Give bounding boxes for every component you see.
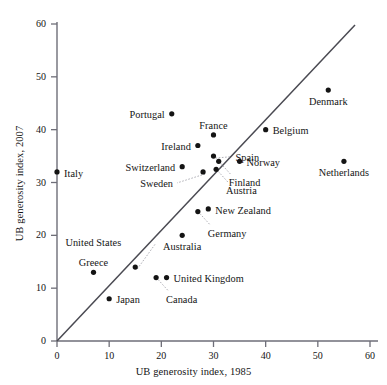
data-point-sweden <box>200 169 205 174</box>
data-point-austria <box>214 167 219 172</box>
x-tick-label-60: 60 <box>353 350 387 361</box>
x-tick-label-50: 50 <box>301 350 335 361</box>
data-point-netherlands <box>341 159 346 164</box>
data-point-france <box>211 132 216 137</box>
data-point-germany <box>195 209 200 214</box>
point-label-belgium: Belgium <box>273 125 309 136</box>
label-leader-lines <box>137 157 231 291</box>
x-tick-label-20: 20 <box>144 350 178 361</box>
point-label-germany: Germany <box>208 228 247 239</box>
y-tick-label-0: 0 <box>14 335 46 346</box>
data-point-canada <box>154 275 159 280</box>
x-tick-label-0: 0 <box>40 350 74 361</box>
data-point-denmark <box>326 87 331 92</box>
data-point-ireland <box>195 143 200 148</box>
point-label-new-zealand: New Zealand <box>215 205 271 216</box>
data-point-greece <box>91 270 96 275</box>
point-label-australia: Australia <box>122 241 242 252</box>
x-tick-label-10: 10 <box>92 350 126 361</box>
y-tick-label-60: 60 <box>14 18 46 29</box>
y-tick-label-50: 50 <box>14 71 46 82</box>
point-label-japan: Japan <box>116 294 140 305</box>
data-point-switzerland <box>180 164 185 169</box>
point-label-denmark: Denmark <box>268 96 387 107</box>
x-tick-label-40: 40 <box>249 350 283 361</box>
x-axis-title: UB generosity index, 1985 <box>0 366 387 377</box>
data-point-finland <box>216 159 221 164</box>
data-point-united-kingdom <box>164 275 169 280</box>
point-label-norway: Norway <box>247 157 280 168</box>
point-label-netherlands: Netherlands <box>284 167 387 178</box>
point-label-switzerland: Switzerland <box>0 162 175 173</box>
point-label-united-kingdom: United Kingdom <box>174 273 244 284</box>
data-point-portugal <box>169 111 174 116</box>
point-label-austria: Austria <box>226 185 257 196</box>
plot-canvas <box>0 0 387 385</box>
data-point-spain <box>211 153 216 158</box>
data-point-new-zealand <box>206 206 211 211</box>
x-axis-ticks <box>57 341 370 347</box>
x-tick-label-30: 30 <box>197 350 231 361</box>
point-label-united-states: United States <box>0 237 121 248</box>
y-tick-label-40: 40 <box>14 124 46 135</box>
point-label-portugal: Portugal <box>0 109 165 120</box>
y-tick-label-10: 10 <box>14 282 46 293</box>
data-point-australia <box>180 233 185 238</box>
point-label-ireland: Ireland <box>0 141 191 152</box>
point-label-greece: Greece <box>34 257 154 268</box>
point-label-france: France <box>154 120 274 131</box>
point-label-sweden: Sweden <box>0 178 173 189</box>
data-point-japan <box>107 296 112 301</box>
point-label-canada: Canada <box>166 294 197 305</box>
scatter-plot-figure: UB generosity index, 1985 UB generosity … <box>0 0 387 385</box>
